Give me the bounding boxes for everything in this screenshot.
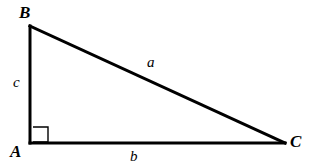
right-angle-marker-icon — [33, 127, 48, 142]
side-label-a: a — [147, 55, 155, 70]
triangle-drawing — [0, 0, 309, 168]
side-label-b: b — [130, 149, 138, 164]
side-label-c: c — [13, 75, 20, 90]
vertex-label-b: B — [19, 4, 30, 21]
triangle-edge-a-hypotenuse — [30, 26, 285, 143]
geometry-figure-canvas: B A C c a b — [0, 0, 309, 168]
vertex-label-c: C — [290, 133, 301, 150]
vertex-label-a: A — [10, 143, 21, 160]
